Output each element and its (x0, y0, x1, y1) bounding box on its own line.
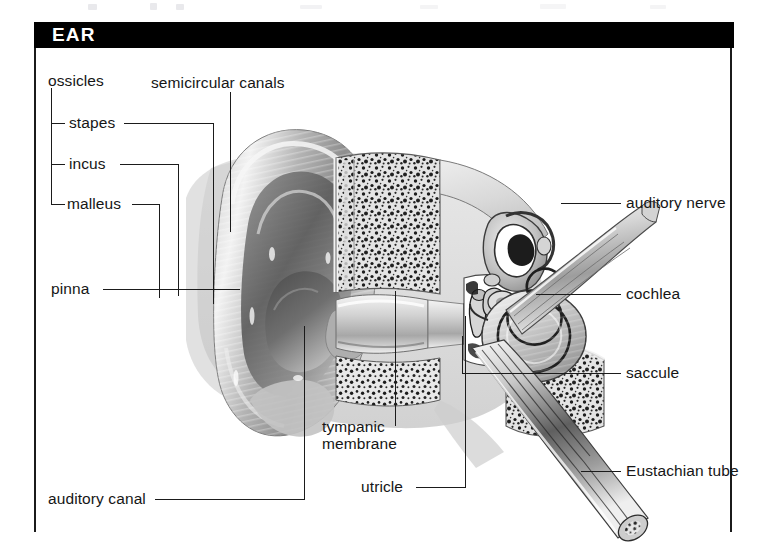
label-tympanic-membrane-line1: tympanic (322, 418, 385, 435)
label-cochlea: cochlea (626, 285, 680, 302)
leader-saccule-v (462, 336, 463, 374)
leader-cochlea (536, 294, 621, 295)
scan-noise-strip (0, 0, 770, 14)
leader-auditory-nerve (561, 203, 621, 204)
leader-stapes-v (213, 123, 214, 304)
leader-saccule-h (462, 373, 621, 374)
label-stapes: stapes (69, 114, 115, 131)
figure-title: EAR (52, 25, 96, 45)
label-utricle: utricle (361, 478, 403, 495)
leader-malleus-v (159, 204, 160, 298)
leader-incus-v (178, 164, 179, 296)
leader-ossicles-tick-incus (51, 164, 65, 165)
label-malleus: malleus (67, 195, 121, 212)
leader-ossicles-spine (51, 88, 52, 204)
label-saccule: saccule (626, 364, 679, 381)
leader-eustachian-tube (581, 471, 621, 472)
auditory-canal-shape (336, 295, 464, 354)
figure-title-bar: EAR (34, 22, 734, 48)
leader-pinna (103, 289, 240, 290)
label-pinna: pinna (51, 280, 89, 297)
leader-tympanic-membrane (395, 291, 396, 426)
label-tympanic-membrane-line2: membrane (322, 435, 397, 452)
leader-semicircular-canals (230, 92, 231, 232)
leader-auditory-canal-v (304, 326, 305, 500)
leader-malleus-h (132, 204, 160, 205)
figure-frame: EAR (34, 22, 734, 534)
leader-stapes-h (124, 123, 214, 124)
label-auditory-nerve: auditory nerve (626, 194, 726, 211)
figure-plate: ossicles stapes incus malleus semicircul… (34, 48, 732, 532)
leader-ossicles-tick-malleus (51, 204, 65, 205)
label-ossicles: ossicles (48, 72, 104, 89)
label-incus: incus (69, 155, 106, 172)
leader-ossicles-tick-stapes (51, 123, 65, 124)
label-auditory-canal: auditory canal (48, 490, 146, 507)
leader-utricle-v (465, 316, 466, 488)
leader-auditory-canal-h (155, 499, 305, 500)
leader-incus-h (120, 164, 179, 165)
label-semicircular-canals: semicircular canals (151, 74, 285, 91)
label-eustachian-tube: Eustachian tube (626, 462, 739, 479)
leader-utricle-h (416, 487, 466, 488)
